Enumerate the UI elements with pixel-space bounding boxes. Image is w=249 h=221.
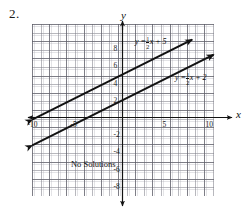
y-tick-label: 8 — [114, 45, 118, 53]
x-axis-label: x — [236, 109, 241, 120]
equation-label-line-2: y = 12x + 2 — [175, 71, 207, 85]
no-solutions-annotation: No Solutions — [71, 160, 116, 169]
equation-1-denominator: 2 — [146, 44, 149, 50]
plot-line-1 — [32, 40, 192, 120]
y-axis-label: y — [121, 10, 126, 21]
y-tick-label: 4 — [114, 80, 118, 88]
x-tick-label: -5 — [71, 121, 77, 129]
equation-1-lhs: y = — [135, 38, 146, 46]
x-tick-label: 10 — [206, 121, 214, 129]
equation-2-numerator: 1 — [186, 72, 189, 78]
equation-1-fraction: 12 — [146, 36, 149, 50]
equation-label-line-1: y = 12x + 5 — [135, 35, 167, 49]
y-tick-label: -2 — [114, 131, 120, 139]
equation-2-rhs: x + 2 — [190, 74, 207, 82]
y-tick-label: -4 — [114, 148, 120, 156]
worksheet-graph-figure: 2. y x -10-55108642-2-4-6-8 — [0, 0, 249, 221]
equation-2-denominator: 2 — [186, 80, 189, 86]
y-tick-label: 6 — [114, 62, 118, 70]
y-tick-label: -8 — [114, 183, 120, 191]
x-tick-label: 5 — [163, 121, 167, 129]
plot-canvas — [0, 0, 249, 221]
equation-1-numerator: 1 — [146, 36, 149, 42]
equation-2-lhs: y = — [175, 74, 186, 82]
equation-1-rhs: x + 5 — [150, 38, 167, 46]
x-tick-label: -10 — [28, 121, 38, 129]
equation-2-fraction: 12 — [186, 72, 189, 86]
y-tick-label: 2 — [114, 97, 118, 105]
